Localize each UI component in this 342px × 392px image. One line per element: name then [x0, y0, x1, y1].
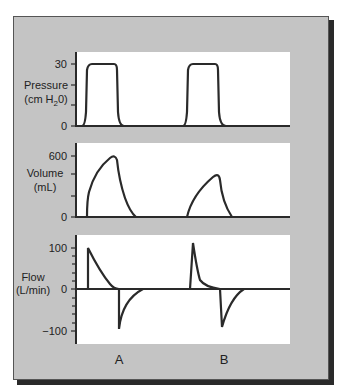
x-label-a: A [115, 352, 124, 367]
flow-panel: 100 0 −100 Flow (L/min) [16, 235, 290, 344]
ventilator-waveforms-chart: 30 0 Pressure (cm H20) 600 0 Volume (mL) [0, 0, 342, 392]
volume-panel: 600 0 Volume (mL) [27, 143, 290, 223]
pressure-tick-30: 30 [55, 58, 67, 70]
volume-plot-area [76, 143, 290, 217]
flow-tick-0: 0 [61, 283, 67, 295]
flow-unit-label: (L/min) [16, 284, 50, 296]
pressure-axis-label: Pressure [24, 79, 68, 91]
volume-unit-label: (mL) [34, 181, 57, 193]
pressure-unit-label: (cm H20) [24, 93, 68, 108]
flow-tick-neg100: −100 [42, 325, 67, 337]
x-label-b: B [220, 352, 229, 367]
volume-tick-600: 600 [49, 150, 67, 162]
flow-tick-100: 100 [49, 242, 67, 254]
volume-axis-label: Volume [27, 167, 64, 179]
flow-axis-label: Flow [21, 271, 44, 283]
pressure-panel: 30 0 Pressure (cm H20) [24, 52, 290, 132]
pressure-tick-0: 0 [61, 120, 67, 132]
volume-tick-0: 0 [61, 211, 67, 223]
